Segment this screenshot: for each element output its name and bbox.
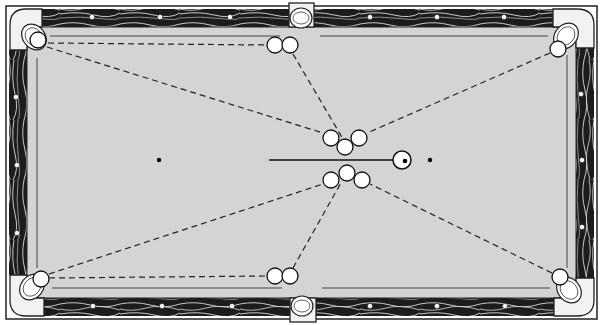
ball-cluster-bottom-2: [339, 165, 355, 181]
diamond-sight-left: [13, 94, 18, 99]
ball-bottom-mid-ball-2: [282, 268, 298, 284]
diamond-sight-left: [14, 162, 19, 167]
cue-ball-tip-mark: [403, 159, 408, 164]
ball-cluster-bottom-1: [323, 172, 339, 188]
diamond-sight-top: [89, 14, 94, 19]
ball-cluster-top-3: [351, 130, 367, 146]
diamond-sight-bottom: [434, 303, 439, 308]
pocket-bottom-middle: [291, 296, 313, 316]
diamond-sight-bottom: [159, 303, 164, 308]
diamond-sight-top: [157, 14, 162, 19]
head-spot: [157, 158, 161, 162]
foot-spot: [428, 158, 432, 162]
felt: [27, 27, 576, 298]
ball-cluster-bottom-3: [354, 172, 370, 188]
ball-bottom-left-pocket-ball: [33, 271, 49, 287]
ball-top-left-pocket-ball: [30, 32, 46, 48]
diamond-sight-top: [501, 14, 506, 19]
diamond-sight-left: [14, 230, 19, 235]
ball-cluster-top-2: [337, 139, 353, 155]
diamond-sight-top: [367, 14, 372, 19]
diamond-sight-bottom: [502, 303, 507, 308]
diamond-sight-top: [227, 14, 232, 19]
cue-ball: [393, 151, 411, 169]
diamond-sight-bottom: [229, 303, 234, 308]
ball-top-mid-ball-1: [267, 37, 283, 53]
rail-right: [576, 48, 594, 278]
pool-table-canvas: [0, 0, 603, 325]
diamond-sight-bottom: [90, 303, 95, 308]
pocket-top-middle: [290, 8, 312, 28]
ball-bottom-mid-ball-1: [267, 268, 283, 284]
rail-top-left: [42, 9, 289, 27]
pool-table-diagram: [0, 0, 603, 325]
ball-bottom-right-pocket-ball: [552, 269, 568, 285]
diamond-sight-bottom: [367, 303, 372, 308]
diamond-sight-right: [578, 91, 583, 96]
ball-top-right-pocket-ball: [550, 41, 566, 57]
rail-bottom-left: [44, 298, 290, 316]
diamond-sight-right: [579, 224, 584, 229]
diamond-sight-right: [579, 157, 584, 162]
rail-top-right: [314, 9, 553, 27]
ball-cluster-top-1: [323, 130, 339, 146]
ball-top-mid-ball-2: [282, 37, 298, 53]
diamond-sight-top: [434, 14, 439, 19]
